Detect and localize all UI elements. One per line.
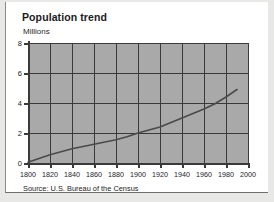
y-axis-tick: [24, 73, 29, 75]
x-axis-tick: [204, 163, 206, 168]
x-axis-tick-label: 1920: [152, 170, 168, 179]
x-axis-tick-label: 1880: [108, 170, 124, 179]
x-axis-tick-label: 1860: [86, 170, 102, 179]
y-axis-tick-label: 6: [10, 69, 22, 78]
y-axis-tick: [24, 163, 29, 165]
x-axis-tick: [94, 163, 96, 168]
x-axis-tick-label: 1960: [196, 170, 212, 179]
y-axis-tick-label: 4: [10, 99, 22, 108]
x-axis-tick: [226, 163, 228, 168]
x-axis-tick-label: 1800: [20, 170, 36, 179]
x-axis-tick-label: 1940: [174, 170, 190, 179]
x-axis-tick-label: 1840: [64, 170, 80, 179]
y-axis-tick: [24, 133, 29, 135]
y-axis-tick: [24, 43, 29, 45]
x-axis-tick-label: 2000: [240, 170, 256, 179]
x-axis-tick: [160, 163, 162, 168]
x-axis-tick: [248, 163, 250, 168]
y-axis-tick-label: 0: [10, 159, 22, 168]
chart-plot-region: 1800182018401860188019001920194019601980…: [0, 0, 274, 202]
x-axis-tick-label: 1900: [130, 170, 146, 179]
x-axis-tick-label: 1820: [42, 170, 58, 179]
data-line-series: [28, 43, 248, 163]
x-axis-tick: [116, 163, 118, 168]
x-axis-tick-label: 1980: [218, 170, 234, 179]
x-axis-tick: [138, 163, 140, 168]
x-axis-tick: [182, 163, 184, 168]
x-axis-tick: [50, 163, 52, 168]
y-axis-tick: [24, 103, 29, 105]
y-axis-tick-label: 2: [10, 129, 22, 138]
gridline-vertical: [248, 43, 249, 163]
x-axis-tick: [72, 163, 74, 168]
y-axis-tick-label: 8: [10, 39, 22, 48]
